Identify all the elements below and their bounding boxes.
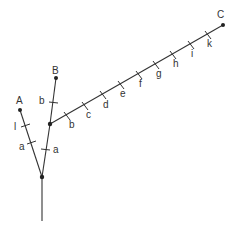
- label-mark-k: k: [207, 38, 213, 49]
- label-mark-d: d: [103, 99, 109, 110]
- label-mark-h: h: [173, 58, 179, 69]
- node-root: [40, 175, 44, 179]
- label-C: C: [217, 9, 224, 20]
- node-junction: [48, 122, 52, 126]
- node-A: [18, 108, 22, 112]
- label-mark-c: c: [86, 109, 91, 120]
- label-mark-f: f: [139, 78, 142, 89]
- label-mark-a-left: a: [19, 141, 25, 152]
- tick-b-B: [49, 102, 58, 103]
- label-mark-g: g: [156, 68, 162, 79]
- branch-root-to-junction: [42, 124, 50, 177]
- label-A: A: [16, 95, 23, 106]
- label-mark-i: i: [191, 48, 193, 59]
- phylogeny-diagram: A B C a l a b b c d e f g h i k: [0, 0, 237, 233]
- branch-junction-to-C: [50, 25, 223, 124]
- label-B: B: [52, 65, 59, 76]
- label-mark-b: b: [69, 119, 75, 130]
- label-mark-b-B: b: [39, 95, 45, 106]
- label-mark-a-right: a: [53, 144, 59, 155]
- node-B: [54, 76, 58, 80]
- node-C: [221, 23, 225, 27]
- label-mark-e: e: [120, 88, 126, 99]
- branch-junction-to-B: [50, 78, 56, 124]
- label-mark-l: l: [14, 121, 16, 132]
- tick-a-right: [41, 149, 50, 150]
